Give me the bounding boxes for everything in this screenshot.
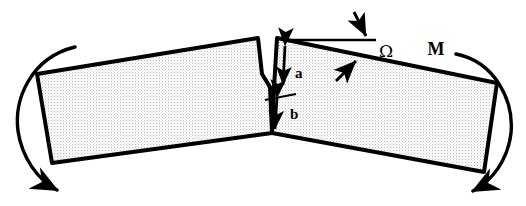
angle-label-omega: Ω [379,41,393,61]
dimension-label-a: a [295,65,303,81]
beam-crack-diagram: M Ω a b [0,0,526,206]
left-beam-segment [37,38,272,163]
dimension-label-b: b [290,106,298,122]
dimension-arrow-a [283,46,285,85]
dimension-arrow-b [275,98,277,129]
moment-label-m: M [428,39,445,59]
diagram-canvas: M Ω a b [0,0,526,206]
datum-pointer-arrow [354,12,366,36]
